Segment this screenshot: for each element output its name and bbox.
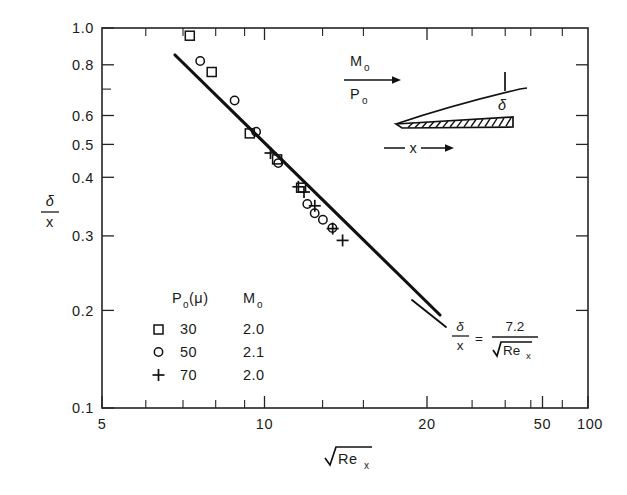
y-axis-label-numerator: δ: [46, 193, 55, 209]
x-axis-minor-ticks: [146, 400, 563, 408]
x-ticklabel-1: 5: [98, 416, 107, 432]
legend-header-pressure-unit: (μ): [189, 290, 209, 306]
legend: P o (μ) M o 30 2.0 50 2.1: [153, 290, 265, 383]
inset-mach-label: M: [350, 53, 362, 69]
x-axis-major-ticks: [102, 396, 588, 408]
legend-header-pressure: P: [172, 290, 182, 306]
boundary-layer-chart: 1.0 0.8 0.6 0.5 0.4 0.3 0.2 0.1 5 10 20 …: [0, 0, 627, 495]
y-ticklabel-2: 0.8: [72, 57, 94, 73]
legend-row: 50 2.1: [154, 344, 264, 360]
x-axis-ticklabels: 5 10 20 50 100: [98, 416, 603, 432]
y-ticklabel-5: 0.4: [72, 170, 94, 186]
fit-line: [175, 55, 440, 315]
equation-rhs-subscript: x: [526, 350, 531, 361]
y-ticklabel-8: 0.1: [72, 400, 94, 416]
inset-pressure-sub: o: [362, 95, 368, 106]
x-axis-label: Re x: [325, 447, 372, 471]
legend-row: 70 2.0: [153, 367, 265, 383]
inset-mach-sub: o: [364, 62, 370, 73]
y-ticklabel-1: 1.0: [72, 20, 94, 36]
inset-freestream-arrow: [344, 76, 401, 84]
y-ticklabel-6: 0.3: [72, 228, 94, 244]
x-axis-label-subscript: x: [364, 460, 369, 471]
figure-root: 1.0 0.8 0.6 0.5 0.4 0.3 0.2 0.1 5 10 20 …: [0, 0, 627, 495]
equation-rhs-numerator: 7.2: [506, 319, 525, 334]
legend-pressure-2: 50: [180, 344, 197, 360]
legend-marker-circle: [154, 348, 162, 356]
equation-lhs-numerator: δ: [456, 319, 464, 334]
legend-marker-square: [154, 325, 163, 334]
legend-mach-3: 2.0: [243, 367, 265, 383]
y-axis-right-ticks: [576, 65, 588, 311]
inset-boundary-layer-curve: [396, 88, 527, 124]
equation-equals: =: [475, 331, 483, 346]
x-axis-top-ticks: [146, 28, 563, 40]
equation-annotation: δ x = 7.2 Re x: [412, 300, 538, 361]
x-ticklabel-3: 20: [418, 416, 435, 432]
legend-pressure-1: 30: [180, 321, 197, 337]
y-axis-label-denominator: x: [46, 214, 54, 230]
series-plus: [265, 147, 349, 246]
y-ticklabel-4: 0.5: [72, 137, 94, 153]
legend-row: 30 2.0: [154, 321, 265, 337]
y-axis-ticks: [102, 28, 114, 408]
x-ticklabel-2: 10: [256, 416, 273, 432]
equation-lhs-denominator: x: [457, 338, 464, 353]
inset-x-label: x: [409, 140, 417, 156]
equation-rhs-radicand: Re: [503, 343, 520, 358]
y-axis-ticklabels: 1.0 0.8 0.6 0.5 0.4 0.3 0.2 0.1: [72, 20, 94, 416]
x-ticklabel-5: 100: [577, 416, 603, 432]
inset-x-dimension: x: [384, 140, 454, 156]
legend-header-mach: M: [243, 290, 256, 306]
y-axis-label: δ x: [41, 193, 59, 230]
legend-marker-plus: [153, 369, 165, 381]
legend-pressure-3: 70: [180, 367, 197, 383]
y-ticklabel-7: 0.2: [72, 303, 94, 319]
legend-mach-2: 2.1: [243, 344, 265, 360]
series-squares: [185, 31, 305, 192]
legend-mach-1: 2.0: [243, 321, 265, 337]
inset-delta-label: δ: [498, 97, 507, 113]
x-ticklabel-4: 50: [534, 416, 551, 432]
y-ticklabel-3: 0.6: [72, 108, 94, 124]
x-axis-label-radicand: Re: [338, 451, 358, 467]
inset-pressure-label: P: [350, 86, 360, 102]
inset-schematic: M o P o: [344, 53, 527, 156]
legend-header-mach-sub: o: [257, 299, 263, 310]
